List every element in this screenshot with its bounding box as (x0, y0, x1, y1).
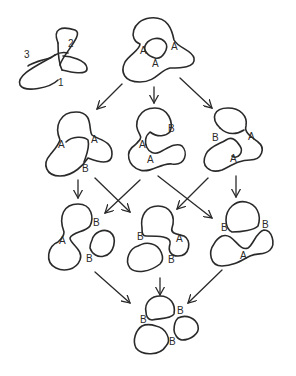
crossing-label-2: 2 (68, 38, 74, 49)
state-label: A (152, 58, 159, 69)
arrow (105, 180, 140, 213)
crossing-label-3: 3 (24, 49, 30, 60)
arrow (180, 78, 212, 108)
state-label: A (140, 45, 147, 56)
state-label: B (177, 305, 184, 316)
state-bottom: B B B (134, 296, 198, 354)
arrow (95, 272, 130, 303)
state-label: B (86, 253, 93, 264)
state-label: A (240, 250, 247, 261)
state-top: A A A (123, 18, 194, 82)
state-label: B (169, 336, 176, 347)
state-label: A (147, 154, 154, 165)
state-label: A (248, 131, 255, 142)
state-label: B (82, 163, 89, 174)
state-label: A (176, 233, 183, 244)
state-label: B (212, 132, 219, 143)
state-row3-mid: B A B (128, 206, 189, 271)
state-label: A (59, 235, 66, 246)
trefoil-knot: 3 2 1 (19, 28, 87, 89)
state-row3-left: A B B (49, 204, 115, 270)
state-label: A (91, 134, 98, 145)
state-label: A (139, 139, 146, 150)
state-label: B (168, 254, 175, 265)
state-label: A (171, 41, 178, 52)
state-label: A (58, 139, 65, 150)
state-label: A (230, 153, 237, 164)
state-row2-mid: A B A (129, 108, 186, 171)
state-label: B (137, 231, 144, 242)
arrow (177, 178, 208, 209)
state-row2-left: A A B (46, 112, 112, 176)
state-label: B (93, 217, 100, 228)
state-row2-right: B A A (204, 108, 262, 171)
state-label: B (262, 219, 269, 230)
arrow (188, 270, 222, 303)
state-label: B (140, 314, 147, 325)
crossing-label-1: 1 (58, 77, 64, 88)
state-label: B (168, 123, 175, 134)
state-diagram: 3 2 1 A A A A A B A B A B A A (0, 0, 296, 376)
state-label: B (221, 222, 228, 233)
arrow (97, 84, 122, 109)
state-row3-right: B B A (211, 202, 273, 266)
